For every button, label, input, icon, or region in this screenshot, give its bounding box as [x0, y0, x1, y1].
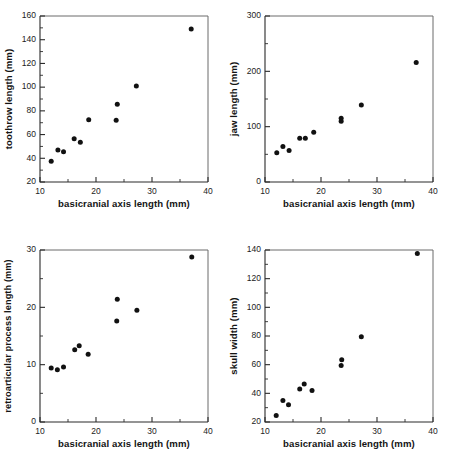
y-tick-label: 20: [27, 302, 37, 312]
y-tick-label: 0: [31, 416, 36, 426]
data-point: [339, 116, 344, 121]
x-tick-label: 40: [203, 186, 213, 196]
data-point: [78, 140, 83, 145]
y-axis-title: retroarticular process length (mm): [3, 259, 13, 413]
multi-panel-figure: 2040608010012014016010203040basicranial …: [0, 0, 449, 475]
data-point: [274, 150, 279, 155]
scatter-plot-skull-width: 2040608010012014010203040basicranial axi…: [225, 236, 449, 475]
plot-frame: [40, 16, 208, 182]
panel-skull-width: 2040608010012014010203040basicranial axi…: [225, 236, 449, 473]
data-point: [280, 144, 285, 149]
x-tick-label: 20: [91, 186, 101, 196]
scatter-plot-toothrow-length: 2040608010012014016010203040basicranial …: [0, 0, 224, 237]
x-tick-label: 40: [428, 426, 438, 436]
data-point: [86, 117, 91, 122]
data-point: [303, 136, 308, 141]
x-tick-label: 20: [316, 426, 326, 436]
y-tick-label: 140: [22, 34, 36, 44]
data-point: [189, 27, 194, 32]
scatter-plot-retroarticular-process-length: 010203010203040basicranial axis length (…: [0, 236, 224, 475]
x-axis-title: basicranial axis length (mm): [58, 198, 190, 209]
data-point: [297, 387, 302, 392]
y-tick-label: 120: [247, 273, 261, 283]
data-point: [311, 130, 316, 135]
x-tick-label: 30: [147, 426, 157, 436]
x-axis-title: basicranial axis length (mm): [283, 198, 415, 209]
data-point: [86, 352, 91, 357]
x-axis-title: basicranial axis length (mm): [58, 438, 190, 449]
data-point: [72, 347, 77, 352]
panel-toothrow-length: 2040608010012014016010203040basicranial …: [0, 0, 224, 237]
data-point: [77, 343, 82, 348]
data-point: [415, 251, 420, 256]
x-tick-label: 10: [260, 426, 270, 436]
data-point-group: [49, 254, 195, 372]
scatter-plot-jaw-length: 010020030010203040basicranial axis lengt…: [225, 0, 449, 237]
data-point: [359, 103, 364, 108]
data-point: [286, 402, 291, 407]
y-tick-label: 300: [247, 10, 261, 20]
y-tick-label: 100: [22, 81, 36, 91]
data-point: [55, 367, 60, 372]
plot-axes: [265, 250, 433, 422]
data-point: [114, 319, 119, 324]
x-tick-label: 40: [428, 186, 438, 196]
plot-frame: [265, 16, 433, 182]
x-tick-label: 10: [35, 426, 45, 436]
plot-axes: [265, 16, 433, 182]
y-tick-label: 30: [27, 244, 37, 254]
data-point: [274, 413, 279, 418]
data-point: [302, 382, 307, 387]
y-tick-label: 0: [256, 176, 261, 186]
data-point: [49, 159, 54, 164]
data-point: [297, 136, 302, 141]
data-point: [414, 60, 419, 65]
y-tick-label: 40: [252, 388, 262, 398]
data-point: [189, 254, 194, 259]
data-point: [310, 388, 315, 393]
plot-frame: [265, 250, 433, 422]
x-axis-title: basicranial axis length (mm): [283, 438, 415, 449]
panel-retroarticular-process-length: 010203010203040basicranial axis length (…: [0, 236, 224, 473]
y-tick-label: 60: [27, 129, 37, 139]
data-point: [287, 148, 292, 153]
data-point: [359, 334, 364, 339]
y-tick-label: 10: [27, 359, 37, 369]
y-tick-label: 100: [247, 121, 261, 131]
data-point: [61, 149, 66, 154]
y-tick-label: 140: [247, 244, 261, 254]
x-tick-label: 10: [260, 186, 270, 196]
x-tick-label: 10: [35, 186, 45, 196]
x-tick-label: 30: [372, 186, 382, 196]
data-point: [134, 308, 139, 313]
y-tick-label: 100: [247, 302, 261, 312]
y-tick-label: 160: [22, 10, 36, 20]
data-point: [114, 118, 119, 123]
x-tick-label: 30: [147, 186, 157, 196]
y-axis-title: jaw length (mm): [228, 62, 239, 138]
plot-axes: [40, 250, 208, 422]
data-point: [339, 363, 344, 368]
data-point: [49, 366, 54, 371]
y-tick-label: 60: [252, 359, 262, 369]
data-point: [72, 136, 77, 141]
data-point-group: [274, 251, 420, 418]
plot-axes: [40, 16, 208, 182]
data-point-group: [274, 60, 418, 155]
x-tick-label: 20: [316, 186, 326, 196]
data-point: [280, 398, 285, 403]
plot-frame: [40, 250, 208, 422]
x-tick-label: 40: [203, 426, 213, 436]
y-tick-label: 200: [247, 66, 261, 76]
data-point: [115, 297, 120, 302]
data-point: [61, 364, 66, 369]
y-tick-label: 40: [27, 153, 37, 163]
y-tick-label: 80: [252, 330, 262, 340]
panel-jaw-length: 010020030010203040basicranial axis lengt…: [225, 0, 449, 237]
x-tick-label: 20: [91, 426, 101, 436]
data-point: [339, 357, 344, 362]
y-tick-label: 120: [22, 58, 36, 68]
y-axis-title: skull width (mm): [228, 297, 239, 374]
y-tick-label: 20: [252, 416, 262, 426]
data-point: [55, 147, 60, 152]
